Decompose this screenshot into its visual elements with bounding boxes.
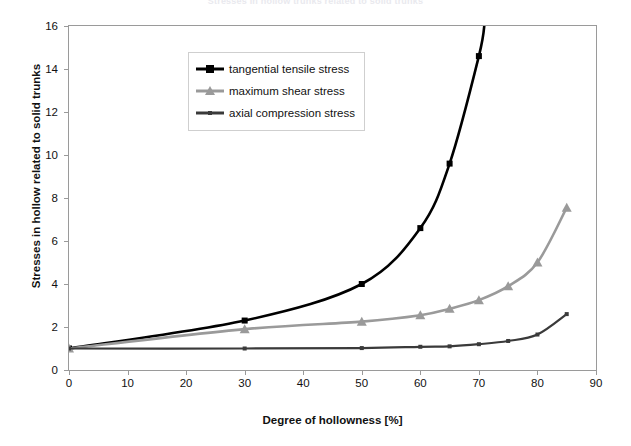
y-tick-mark: [64, 370, 68, 371]
legend-marker-square-icon: [195, 62, 225, 76]
x-tick-label: 10: [111, 377, 145, 389]
x-tick-mark: [128, 371, 129, 375]
x-tick-label: 20: [169, 377, 203, 389]
x-tick-mark: [596, 371, 597, 375]
legend-marker-triangle-icon: [195, 84, 225, 98]
data-point-marker: [565, 312, 569, 316]
series-line: [69, 314, 567, 348]
legend-label: axial compression stress: [229, 107, 355, 119]
x-tick-label: 0: [52, 377, 86, 389]
x-tick-label: 50: [345, 377, 379, 389]
x-tick-mark: [186, 371, 187, 375]
legend-item-0: tangential tensile stress: [195, 58, 355, 80]
x-tick-mark: [303, 371, 304, 375]
x-tick-mark: [362, 371, 363, 375]
data-point-marker: [448, 344, 452, 348]
y-tick-label: 10: [18, 149, 58, 161]
data-point-marker: [242, 318, 248, 324]
x-tick-mark: [69, 371, 70, 375]
y-tick-mark: [64, 155, 68, 156]
data-point-marker: [418, 345, 422, 349]
legend-marker-small-square-icon: [195, 106, 225, 120]
legend-item-1: maximum shear stress: [195, 80, 355, 102]
y-tick-mark: [64, 198, 68, 199]
chart-title: Stresses in hollow trunks related to sol…: [0, 0, 631, 6]
data-point-marker: [506, 339, 510, 343]
y-tick-mark: [64, 112, 68, 113]
data-point-marker: [69, 347, 71, 351]
data-point-marker: [360, 346, 364, 350]
y-tick-label: 12: [18, 106, 58, 118]
data-point-marker: [535, 333, 539, 337]
chart-figure: Stresses in hollow trunks related to sol…: [0, 0, 631, 446]
y-tick-label: 8: [18, 192, 58, 204]
y-tick-label: 16: [18, 20, 58, 32]
y-tick-label: 0: [18, 364, 58, 376]
data-point-marker: [477, 342, 481, 346]
x-tick-label: 70: [462, 377, 496, 389]
legend-label: maximum shear stress: [229, 85, 345, 97]
y-tick-label: 4: [18, 278, 58, 290]
x-tick-mark: [245, 371, 246, 375]
y-tick-mark: [64, 241, 68, 242]
legend-item-2: axial compression stress: [195, 102, 355, 124]
data-point-marker: [359, 281, 365, 287]
series-maximum-shear-stress: [69, 203, 572, 353]
x-tick-label: 80: [520, 377, 554, 389]
data-point-marker: [476, 53, 482, 59]
x-tick-label: 30: [228, 377, 262, 389]
x-tick-mark: [420, 371, 421, 375]
x-tick-label: 60: [403, 377, 437, 389]
data-point-marker: [243, 347, 247, 351]
x-tick-mark: [537, 371, 538, 375]
y-tick-label: 6: [18, 235, 58, 247]
legend-label: tangential tensile stress: [229, 63, 349, 75]
y-tick-mark: [64, 69, 68, 70]
y-tick-label: 14: [18, 63, 58, 75]
data-point-marker: [417, 225, 423, 231]
y-tick-mark: [64, 26, 68, 27]
y-tick-mark: [64, 284, 68, 285]
series-axial-compression-stress: [69, 312, 569, 350]
x-tick-mark: [479, 371, 480, 375]
series-line: [69, 208, 567, 349]
x-tick-label: 40: [286, 377, 320, 389]
x-tick-label: 90: [579, 377, 613, 389]
data-point-marker: [447, 161, 453, 167]
data-point-marker: [562, 203, 572, 212]
chart-legend: tangential tensile stressmaximum shear s…: [188, 52, 365, 131]
y-tick-label: 2: [18, 321, 58, 333]
x-axis-title: Degree of hollowness [%]: [68, 414, 597, 426]
y-tick-mark: [64, 327, 68, 328]
